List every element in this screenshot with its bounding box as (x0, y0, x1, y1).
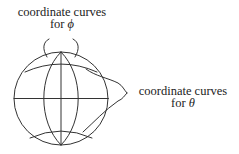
phi-curves-label: coordinate curves for ϕ (10, 6, 114, 30)
theta-label-line2: for θ (133, 97, 233, 109)
phi-label-prefix: for (50, 17, 68, 31)
theta-brace-upper (86, 69, 127, 93)
phi-symbol: ϕ (68, 17, 74, 31)
theta-label-prefix: for (171, 96, 189, 110)
phi-label-line2: for ϕ (10, 18, 114, 30)
theta-symbol: θ (189, 96, 195, 110)
diagram-canvas: coordinate curves for ϕ coordinate curve… (0, 0, 239, 154)
theta-curves-label: coordinate curves for θ (133, 85, 233, 109)
